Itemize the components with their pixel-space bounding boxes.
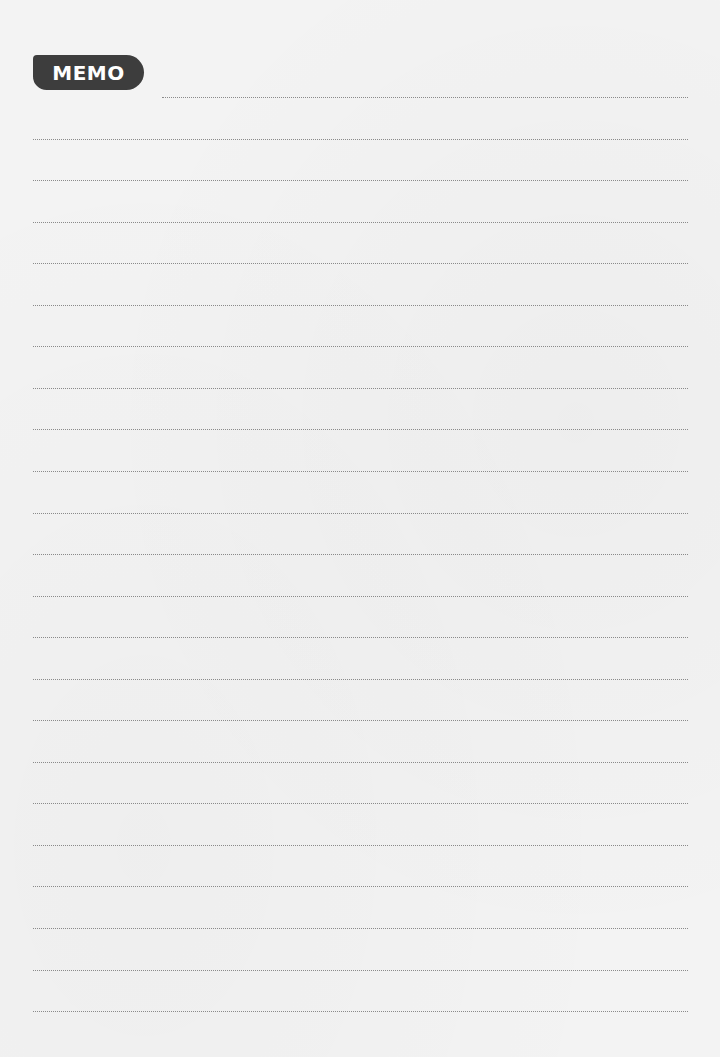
writing-line: [33, 803, 688, 804]
writing-line: [33, 471, 688, 472]
memo-title-badge: MEMO: [33, 55, 144, 90]
memo-title: MEMO: [52, 61, 124, 85]
writing-line: [33, 513, 688, 514]
writing-line: [33, 346, 688, 347]
writing-line: [33, 139, 688, 140]
writing-line: [33, 222, 688, 223]
writing-line: [33, 429, 688, 430]
writing-line: [33, 845, 688, 846]
writing-line: [33, 596, 688, 597]
writing-line: [33, 180, 688, 181]
writing-line: [33, 263, 688, 264]
writing-line: [33, 762, 688, 763]
writing-line: [33, 928, 688, 929]
writing-line: [33, 720, 688, 721]
writing-line: [33, 305, 688, 306]
writing-line: [162, 97, 688, 98]
writing-line: [33, 637, 688, 638]
writing-line: [33, 554, 688, 555]
writing-line: [33, 388, 688, 389]
writing-line: [33, 886, 688, 887]
memo-page: MEMO: [0, 0, 720, 1057]
writing-line: [33, 679, 688, 680]
writing-line: [33, 1011, 688, 1012]
writing-line: [33, 970, 688, 971]
